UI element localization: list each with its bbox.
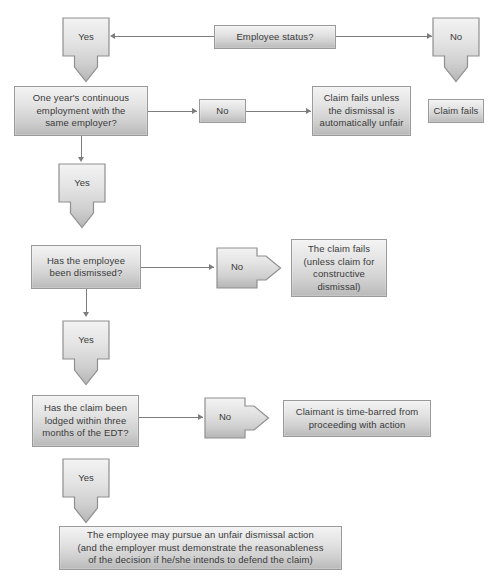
arrowhead-dismissed-to-no3 bbox=[209, 264, 214, 270]
node-claim-fails[interactable]: Claim fails bbox=[428, 99, 484, 123]
node-no-1[interactable]: No bbox=[432, 17, 480, 83]
node-claim-fails-constructive-line-4: dismissal) bbox=[296, 281, 382, 294]
node-lodged-line-3: months of the EDT? bbox=[37, 427, 134, 440]
node-dismissed-line-1: Has the employee bbox=[36, 255, 136, 268]
arrowhead-no2-to-claimfails bbox=[306, 108, 311, 114]
node-claim-fails-unless-line-3: automatically unfair bbox=[317, 117, 406, 130]
node-no-2-label: No bbox=[204, 105, 241, 118]
connector-oneyear-to-no2 bbox=[148, 111, 197, 112]
node-outcome[interactable]: The employee may pursue an unfair dismis… bbox=[59, 526, 342, 570]
node-time-barred[interactable]: Claimant is time-barred from proceeding … bbox=[283, 400, 431, 437]
node-employee-status-label: Employee status? bbox=[219, 31, 331, 44]
node-yes-4[interactable]: Yes bbox=[62, 458, 110, 524]
node-no-2[interactable]: No bbox=[199, 99, 246, 123]
node-yes-2[interactable]: Yes bbox=[58, 163, 106, 229]
arrowhead-status-to-yes1 bbox=[110, 33, 115, 39]
node-lodged-line-2: lodged within three bbox=[37, 415, 134, 428]
node-no-4[interactable]: No bbox=[204, 397, 270, 439]
node-yes-1[interactable]: Yes bbox=[62, 17, 110, 83]
connector-status-to-yes1 bbox=[115, 36, 214, 37]
node-outcome-line-1: The employee may pursue an unfair dismis… bbox=[64, 529, 337, 542]
node-claim-fails-unless-line-1: Claim fails unless bbox=[317, 92, 406, 105]
node-one-year-line-3: same employer? bbox=[19, 117, 143, 130]
arrowhead-dismissed-to-yes3 bbox=[83, 312, 89, 317]
node-time-barred-line-1: Claimant is time-barred from bbox=[288, 406, 426, 419]
node-claim-lodged-in-time[interactable]: Has the claim been lodged within three m… bbox=[32, 395, 139, 447]
node-claim-fails-unless[interactable]: Claim fails unless the dismissal is auto… bbox=[312, 86, 411, 136]
connector-no2-to-claimfails bbox=[246, 111, 311, 112]
node-one-year-line-1: One year's continuous bbox=[19, 92, 143, 105]
node-employee-status[interactable]: Employee status? bbox=[214, 25, 336, 49]
node-one-year-employment[interactable]: One year's continuous employment with th… bbox=[14, 86, 148, 136]
node-claim-fails-constructive-line-3: constructive bbox=[296, 268, 382, 281]
connector-status-to-no1 bbox=[336, 36, 432, 37]
arrowhead-lodged-to-no4 bbox=[198, 414, 203, 420]
connector-lodged-to-no4 bbox=[139, 417, 203, 418]
node-dismissed-line-2: been dismissed? bbox=[36, 267, 136, 280]
node-one-year-line-2: employment with the bbox=[19, 105, 143, 118]
node-has-been-dismissed[interactable]: Has the employee been dismissed? bbox=[31, 245, 141, 289]
node-claim-fails-constructive[interactable]: The claim fails (unless claim for constr… bbox=[291, 239, 387, 297]
node-outcome-line-2: (and the employer must demonstrate the r… bbox=[64, 542, 337, 555]
connector-dismissed-to-no3 bbox=[141, 267, 214, 268]
flowchart-canvas: Employee status? Yes bbox=[0, 0, 498, 587]
node-claim-fails-unless-line-2: the dismissal is bbox=[317, 105, 406, 118]
arrowhead-oneyear-to-yes2 bbox=[78, 157, 84, 162]
node-yes-3[interactable]: Yes bbox=[62, 320, 110, 386]
node-outcome-line-3: of the decision if he/she intends to def… bbox=[64, 554, 337, 567]
node-no-3[interactable]: No bbox=[216, 247, 282, 289]
node-lodged-line-1: Has the claim been bbox=[37, 402, 134, 415]
connector-dismissed-to-yes3 bbox=[86, 289, 87, 314]
arrowhead-oneyear-to-no2 bbox=[192, 108, 197, 114]
node-claim-fails-label: Claim fails bbox=[433, 105, 479, 118]
node-time-barred-line-2: proceeding with action bbox=[288, 419, 426, 432]
node-claim-fails-constructive-line-1: The claim fails bbox=[296, 243, 382, 256]
node-claim-fails-constructive-line-2: (unless claim for bbox=[296, 256, 382, 269]
